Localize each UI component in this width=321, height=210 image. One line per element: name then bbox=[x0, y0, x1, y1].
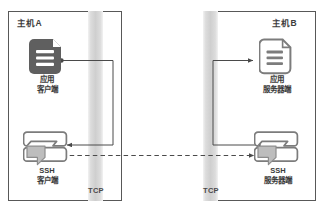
app-client-label-line2: 客户端 bbox=[18, 85, 76, 95]
ssh-server-label-line1: SSH bbox=[270, 166, 285, 175]
app-client-label: 应用 客户端 bbox=[18, 75, 76, 94]
ssh-server-label-line2: 服务器端 bbox=[246, 176, 310, 186]
ssh-client-label-line2: 客户端 bbox=[16, 176, 78, 186]
tcp-label-right: TCP bbox=[203, 186, 219, 195]
ssh-tunnel-icon bbox=[254, 130, 302, 166]
node-app-client[interactable]: 应用 客户端 bbox=[18, 38, 76, 94]
ssh-client-label-line1: SSH bbox=[39, 166, 54, 175]
node-app-server[interactable]: 应用 服务器端 bbox=[248, 38, 306, 94]
app-server-label: 应用 服务器端 bbox=[248, 75, 306, 94]
node-ssh-client[interactable]: SSH 客户端 bbox=[16, 130, 78, 185]
tcp-band-right bbox=[203, 11, 218, 201]
clipped-header-strip: ———————————————— bbox=[0, 0, 321, 9]
app-client-icon-wrap bbox=[18, 38, 76, 75]
tcp-label-left: TCP bbox=[88, 186, 104, 195]
host-a-title: 主机A bbox=[17, 16, 42, 28]
document-outline-icon bbox=[259, 38, 295, 75]
app-server-icon-wrap bbox=[248, 38, 306, 75]
tcp-band-left bbox=[88, 11, 103, 201]
node-ssh-server[interactable]: SSH 服务器端 bbox=[246, 130, 310, 185]
ssh-client-icon-wrap bbox=[16, 130, 78, 166]
app-server-label-line2: 服务器端 bbox=[248, 85, 306, 95]
host-b-title: 主机B bbox=[272, 16, 297, 28]
app-client-label-line1: 应用 bbox=[40, 75, 54, 84]
clipped-header-text: ———————————————— bbox=[4, 0, 154, 3]
app-server-label-line1: 应用 bbox=[270, 75, 284, 84]
ssh-client-label: SSH 客户端 bbox=[16, 166, 78, 185]
ssh-server-label: SSH 服务器端 bbox=[246, 166, 310, 185]
document-filled-icon bbox=[29, 38, 65, 75]
ssh-server-icon-wrap bbox=[246, 130, 310, 166]
ssh-tunnel-icon bbox=[23, 130, 71, 166]
